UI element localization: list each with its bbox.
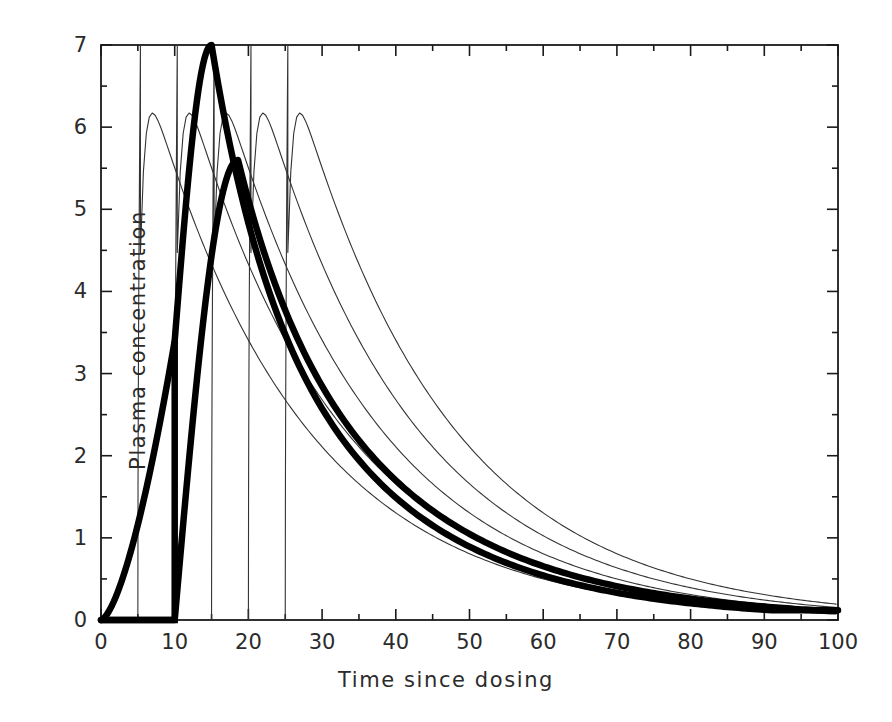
x-tick-label: 40 bbox=[382, 630, 409, 654]
y-axis-title: Plasma concentration bbox=[126, 60, 150, 620]
x-tick-label: 30 bbox=[309, 630, 336, 654]
x-tick-label: 80 bbox=[677, 630, 704, 654]
x-tick-label: 100 bbox=[818, 630, 858, 654]
x-axis-title: Time since dosing bbox=[0, 668, 892, 692]
figure-container: 0102030405060708090100 01234567 Time sin… bbox=[0, 0, 892, 722]
curve-dose-at-25 bbox=[285, 45, 836, 620]
x-tick-label: 10 bbox=[161, 630, 188, 654]
x-tick-label: 50 bbox=[456, 630, 483, 654]
y-tick-label: 7 bbox=[55, 33, 87, 57]
curve-dose-at-15 bbox=[211, 45, 836, 620]
curve-dose-at-10 bbox=[175, 45, 838, 620]
x-tick-label: 20 bbox=[235, 630, 262, 654]
y-tick-label: 3 bbox=[55, 362, 87, 386]
y-tick-label: 6 bbox=[55, 115, 87, 139]
y-tick-label: 4 bbox=[55, 279, 87, 303]
data-curves bbox=[101, 45, 838, 620]
x-tick-label: 70 bbox=[604, 630, 631, 654]
curve-dose-at-20 bbox=[248, 45, 837, 620]
y-tick-label: 5 bbox=[55, 197, 87, 221]
y-tick-label: 0 bbox=[55, 608, 87, 632]
curve-dose-at-5 bbox=[138, 45, 836, 620]
y-tick-label: 2 bbox=[55, 444, 87, 468]
x-tick-label: 0 bbox=[94, 630, 107, 654]
y-tick-label: 1 bbox=[55, 526, 87, 550]
x-tick-label: 60 bbox=[530, 630, 557, 654]
x-tick-label: 90 bbox=[751, 630, 778, 654]
